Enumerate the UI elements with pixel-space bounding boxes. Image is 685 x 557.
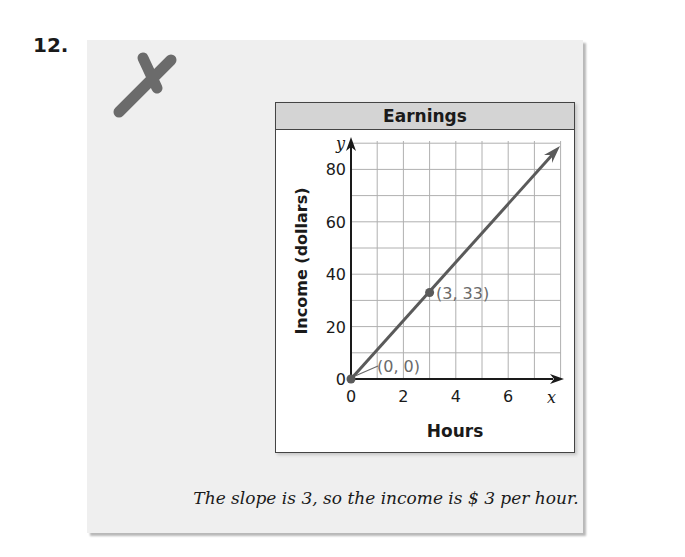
point-origin <box>347 375 356 384</box>
point-3-33 <box>425 288 434 297</box>
statement-row: The slope is 3, so the income is $ 3 per… <box>0 488 685 508</box>
y-tick-labels: 80 60 40 20 0 <box>326 160 346 389</box>
income-line <box>347 146 561 384</box>
chart-container: Earnings <box>275 102 575 453</box>
x-tick-labels: 0 2 4 6 <box>346 387 513 406</box>
statement-text: The slope is 3, so the income is $ 3 per… <box>138 488 634 508</box>
svg-text:0: 0 <box>346 387 356 406</box>
svg-text:4: 4 <box>451 387 461 406</box>
svg-text:60: 60 <box>326 213 346 232</box>
svg-text:6: 6 <box>503 387 513 406</box>
svg-text:80: 80 <box>326 160 346 179</box>
annotation-origin: (0, 0) <box>377 357 420 376</box>
x-axis-title: Hours <box>427 421 484 441</box>
problem-number: 12. <box>33 33 68 57</box>
svg-text:0: 0 <box>336 370 346 389</box>
svg-text:2: 2 <box>398 387 408 406</box>
svg-text:40: 40 <box>326 265 346 284</box>
annotation-3-33: (3, 33) <box>436 284 489 303</box>
y-axis-var: y <box>335 134 346 153</box>
x-axis-var: x <box>547 388 556 407</box>
chart-plot: y x 80 60 40 20 0 0 2 4 6 (0, 0) (3, <box>276 103 574 452</box>
x-mark-icon <box>105 50 185 120</box>
y-axis-title: Income (dollars) <box>292 187 311 334</box>
svg-text:20: 20 <box>326 318 346 337</box>
